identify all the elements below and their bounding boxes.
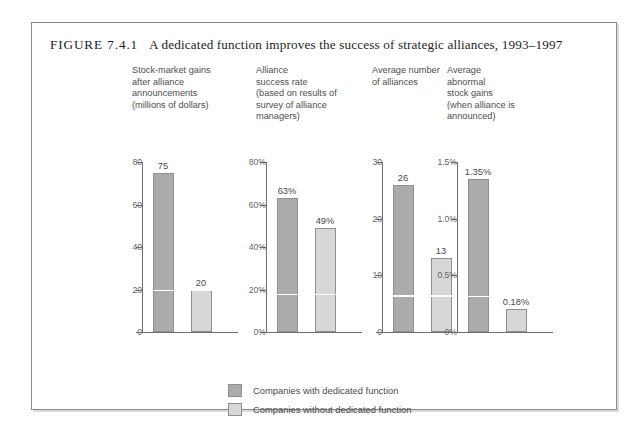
y-axis-tick-label: 40 bbox=[107, 242, 142, 252]
chart-panel-average-abnormal-stock-gains: Average abnormal stock gains (when allia… bbox=[414, 65, 560, 360]
chart-title-line: abnormal bbox=[447, 77, 553, 89]
bar-value-label: 20 bbox=[175, 278, 227, 288]
bar-value-label: 0.18% bbox=[490, 297, 542, 307]
y-axis-tick-label: 1.5% bbox=[422, 157, 457, 167]
y-axis-tick-label: 40% bbox=[231, 242, 266, 252]
legend: Companies with dedicated function Compan… bbox=[228, 381, 528, 419]
y-axis-line bbox=[142, 162, 143, 332]
x-axis-line bbox=[457, 332, 553, 333]
bar-series-without-dedicated-function bbox=[506, 309, 527, 332]
bar-value-label: 75 bbox=[137, 161, 189, 171]
bar-series-with-dedicated-function bbox=[153, 173, 174, 332]
legend-item-with-dedicated-function: Companies with dedicated function bbox=[228, 381, 528, 400]
bar-series-without-dedicated-function bbox=[315, 228, 336, 332]
y-axis-tick-label: 1.0% bbox=[422, 214, 457, 224]
y-axis-tick-label: 60 bbox=[107, 200, 142, 210]
y-axis-tick-label: 0% bbox=[422, 327, 457, 337]
figure-frame: FIGURE 7.4.1A dedicated function improve… bbox=[31, 22, 617, 410]
y-axis-tick-label: 20% bbox=[231, 285, 266, 295]
legend-item-without-dedicated-function: Companies without dedicated function bbox=[228, 400, 528, 419]
bar-value-label: 63% bbox=[261, 186, 313, 196]
y-axis-tick-label: 80% bbox=[231, 157, 266, 167]
y-axis-tick-label: 0% bbox=[231, 327, 266, 337]
bar-series-with-dedicated-function bbox=[468, 179, 489, 332]
y-axis-tick-label: 20 bbox=[107, 285, 142, 295]
chart-panels: Stock-market gains after alliance announ… bbox=[32, 65, 616, 360]
bar-value-label: 1.35% bbox=[452, 167, 504, 177]
chart-title: Average abnormal stock gains (when allia… bbox=[447, 65, 553, 123]
y-axis-tick-label: 10 bbox=[347, 270, 382, 280]
y-axis-tick-label: 60% bbox=[231, 200, 266, 210]
bar-series-with-dedicated-function bbox=[277, 198, 298, 332]
y-axis-line bbox=[382, 162, 383, 332]
figure-title: A dedicated function improves the succes… bbox=[149, 37, 562, 52]
bar-series-with-dedicated-function bbox=[393, 185, 414, 332]
legend-swatch-icon bbox=[228, 384, 242, 397]
figure-caption: FIGURE 7.4.1A dedicated function improve… bbox=[50, 37, 562, 53]
bar-series-without-dedicated-function bbox=[191, 290, 212, 333]
y-axis-line bbox=[457, 162, 458, 332]
y-axis-tick-label: 0 bbox=[107, 327, 142, 337]
y-axis-tick-label: 20 bbox=[347, 214, 382, 224]
chart-title-line: (when alliance is bbox=[447, 100, 553, 112]
y-axis-tick-label: 0 bbox=[347, 327, 382, 337]
figure-label: FIGURE 7.4.1 bbox=[50, 37, 138, 52]
chart-title-line: announced) bbox=[447, 111, 553, 123]
y-axis-tick-label: 0.5% bbox=[422, 270, 457, 280]
legend-swatch-icon bbox=[228, 403, 242, 416]
legend-label: Companies without dedicated function bbox=[253, 404, 411, 415]
chart-title-line: Average bbox=[447, 65, 553, 77]
y-axis-tick-label: 30 bbox=[347, 157, 382, 167]
plot-area: 1.5% 1.0% 0.5% 0% 1.35% 0.18% bbox=[414, 154, 560, 340]
chart-title-line: stock gains bbox=[447, 88, 553, 100]
legend-label: Companies with dedicated function bbox=[253, 385, 398, 396]
